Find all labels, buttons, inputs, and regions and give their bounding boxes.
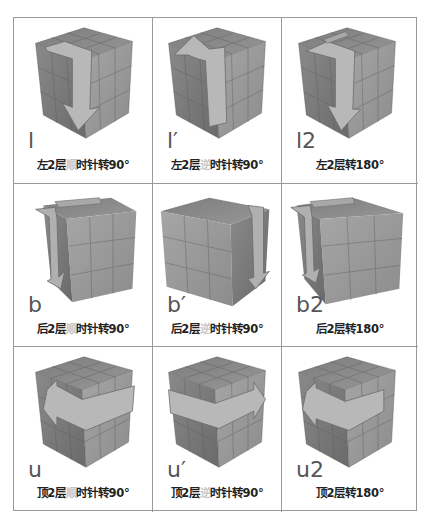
move-notation: u — [28, 459, 42, 481]
cell-b-prime: b′ 后2层逆时针转90° — [153, 184, 282, 347]
move-notation: l — [28, 130, 34, 152]
notation-grid: l 左2层顺时针转90° l′ 左2层逆时针转90° l2 左2层转180° — [13, 17, 417, 511]
move-caption: 后2层转180° — [282, 320, 418, 336]
move-caption: 顶2层顺时针转90° — [14, 484, 152, 500]
cell-u-prime: u′ 顶2层逆时针转90° — [153, 347, 282, 512]
cell-b: b 后2层顺时针转90° — [14, 184, 153, 347]
cube-left-layer-clockwise-arrow-icon — [22, 22, 146, 146]
move-caption: 左2层顺时针转90° — [14, 156, 152, 172]
move-caption: 左2层转180° — [282, 156, 418, 172]
cell-l-prime: l′ 左2层逆时针转90° — [153, 18, 282, 184]
move-notation: l′ — [167, 130, 178, 152]
move-caption: 顶2层转180° — [282, 484, 418, 500]
cell-u2: u2 顶2层转180° — [282, 347, 418, 512]
move-notation: b′ — [167, 294, 186, 316]
move-caption: 左2层逆时针转90° — [153, 156, 281, 172]
cell-u: u 顶2层顺时针转90° — [14, 347, 153, 512]
move-caption: 后2层逆时针转90° — [153, 320, 281, 336]
cell-l: l 左2层顺时针转90° — [14, 18, 153, 184]
move-caption: 后2层顺时针转90° — [14, 320, 152, 336]
move-caption: 顶2层逆时针转90° — [153, 484, 281, 500]
cell-b2: b2 后2层转180° — [282, 184, 418, 347]
cell-l2: l2 左2层转180° — [282, 18, 418, 184]
move-notation: b2 — [296, 294, 324, 316]
move-notation: l2 — [296, 130, 316, 152]
move-notation: b — [28, 294, 42, 316]
move-notation: u′ — [167, 459, 186, 481]
move-notation: u2 — [296, 459, 324, 481]
